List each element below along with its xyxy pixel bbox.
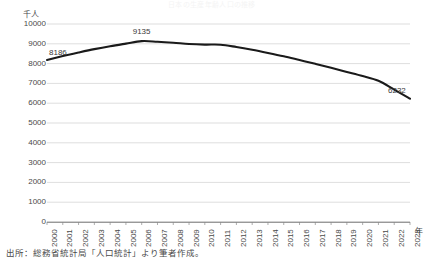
x-tick-label: 2017 <box>319 229 327 247</box>
x-tick-label: 2007 <box>161 229 169 247</box>
chart-figure: 日本の生産年齢人口の推移 千人 010002000300040005000600… <box>0 0 424 268</box>
x-tick-label: 2016 <box>303 229 311 247</box>
x-tick-label: 2002 <box>82 229 90 247</box>
x-tick-label: 2011 <box>224 230 232 247</box>
x-tick-label: 2014 <box>272 229 280 247</box>
x-tick-label: 2009 <box>193 229 201 247</box>
x-tick-label: 2019 <box>350 229 358 247</box>
plot-area: 0100020003000400050006000700080009000100… <box>0 0 424 268</box>
x-tick-label: 2020 <box>366 229 374 247</box>
x-tick-label: 2012 <box>240 229 248 247</box>
source-note: 出所：総務省統計局「人口統計」より筆者作成。 <box>6 248 204 259</box>
x-axis-tick-labels: 2000200120022003200420052006200720082009… <box>0 0 424 268</box>
x-tick-label: 2015 <box>287 229 295 247</box>
x-axis-unit-label: 年 <box>415 228 423 236</box>
x-tick-label: 2000 <box>51 229 59 247</box>
x-tick-label: 2013 <box>256 229 264 247</box>
x-tick-label: 2004 <box>114 229 122 247</box>
x-tick-label: 2005 <box>130 229 138 247</box>
data-point-label: 6232 <box>388 87 406 95</box>
data-point-label: 9135 <box>133 28 151 36</box>
x-tick-label: 2021 <box>382 229 390 247</box>
x-tick-label: 2003 <box>98 229 106 247</box>
data-point-label: 8186 <box>49 49 67 57</box>
x-tick-label: 2006 <box>145 229 153 247</box>
x-tick-label: 2022 <box>398 229 406 247</box>
x-tick-label: 2010 <box>208 229 216 247</box>
x-tick-label: 2001 <box>66 229 74 247</box>
x-tick-label: 2018 <box>335 229 343 247</box>
x-tick-label: 2008 <box>177 229 185 247</box>
